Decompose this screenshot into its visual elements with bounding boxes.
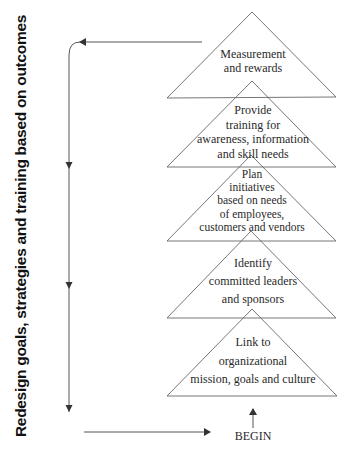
label-line: of employees, bbox=[182, 208, 322, 221]
label-line: Plan bbox=[182, 168, 322, 181]
triangle-link-label: Link to organizational mission, goals an… bbox=[183, 333, 323, 389]
label-line: training for bbox=[183, 118, 323, 133]
label-line: and rewards bbox=[183, 61, 323, 75]
triangle-measurement-label: Measurement and rewards bbox=[183, 47, 323, 75]
label-line: and sponsors bbox=[183, 290, 323, 308]
triangle-training-label: Provide training for awareness, informat… bbox=[183, 103, 323, 161]
down-arrow-icon bbox=[66, 162, 73, 169]
triangle-plan-label: Plan initiatives based on needs of emplo… bbox=[182, 168, 322, 234]
label-line: and skill needs bbox=[183, 147, 323, 162]
label-line: Link to bbox=[183, 333, 323, 352]
label-line: customers and vendors bbox=[182, 221, 322, 234]
label-line: awareness, information bbox=[183, 132, 323, 147]
label-line: organizational bbox=[183, 352, 323, 371]
triangle-identify-label: Identify committed leaders and sponsors bbox=[183, 254, 323, 308]
down-arrow-icon bbox=[66, 405, 73, 412]
begin-label: BEGIN bbox=[235, 429, 272, 444]
label-line: Provide bbox=[183, 103, 323, 118]
side-label-redesign: Redesign goals, strategies and training … bbox=[12, 15, 30, 437]
label-line: mission, goals and culture bbox=[183, 370, 323, 389]
label-line: based on needs bbox=[182, 194, 322, 207]
label-line: Measurement bbox=[183, 47, 323, 61]
label-line: committed leaders bbox=[183, 272, 323, 290]
label-line: initiatives bbox=[182, 181, 322, 194]
down-arrow-icon bbox=[66, 282, 73, 289]
label-line: Identify bbox=[183, 254, 323, 272]
